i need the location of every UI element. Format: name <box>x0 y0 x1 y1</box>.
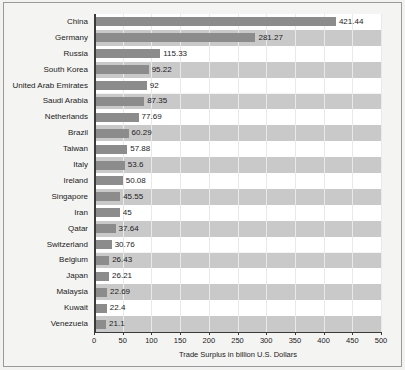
bar[interactable] <box>94 240 112 249</box>
bar[interactable] <box>94 208 120 217</box>
value-label: 87.35 <box>147 96 167 106</box>
x-tick-mark <box>324 332 325 335</box>
bar[interactable] <box>94 256 109 265</box>
bar[interactable] <box>94 17 336 26</box>
category-label: China <box>67 17 88 27</box>
x-tick-mark <box>209 332 210 335</box>
category-label: Saudi Arabia <box>43 96 88 106</box>
value-label: 421.44 <box>339 17 363 27</box>
bar[interactable] <box>94 176 123 185</box>
category-label: South Korea <box>44 65 88 75</box>
x-tick-mark <box>180 332 181 335</box>
category-label: Switzerland <box>47 240 88 250</box>
value-label: 45.55 <box>123 192 143 202</box>
bar-series <box>94 14 381 332</box>
value-label: 26.43 <box>112 255 132 265</box>
x-tick-mark <box>94 332 95 335</box>
category-label: Germany <box>55 33 88 43</box>
category-label: Singapore <box>52 192 88 202</box>
value-label: 115.33 <box>163 49 187 59</box>
value-label: 22.69 <box>110 287 130 297</box>
x-tick-mark <box>238 332 239 335</box>
value-label: 50.08 <box>126 176 146 186</box>
bar[interactable] <box>94 161 125 170</box>
x-tick-mark <box>381 332 382 335</box>
x-tick-mark <box>352 332 353 335</box>
bar[interactable] <box>94 33 255 42</box>
category-label: Taiwan <box>63 144 88 154</box>
x-tick-label: 250 <box>231 336 244 345</box>
bar[interactable] <box>94 192 120 201</box>
value-label: 57.88 <box>130 144 150 154</box>
category-label: Venezuela <box>51 319 88 329</box>
category-label: Iran <box>74 208 88 218</box>
value-label: 53.6 <box>128 160 144 170</box>
value-label: 37.64 <box>119 224 139 234</box>
x-tick-label: 450 <box>346 336 359 345</box>
y-axis-line <box>94 14 96 332</box>
x-axis-title: Trade Surplus in billion U.S. Dollars <box>94 350 382 359</box>
y-axis-category-labels: ChinaGermanyRussiaSouth KoreaUnited Arab… <box>0 14 91 332</box>
x-tick-label: 100 <box>145 336 158 345</box>
value-label: 26.21 <box>112 271 132 281</box>
bar[interactable] <box>94 272 109 281</box>
category-label: Ireland <box>64 176 88 186</box>
x-tick-mark <box>266 332 267 335</box>
category-label: Qatar <box>68 224 88 234</box>
value-label: 92 <box>150 81 159 91</box>
x-tick-mark <box>151 332 152 335</box>
value-label: 30.76 <box>115 240 135 250</box>
value-label: 21.1 <box>109 319 125 329</box>
bar[interactable] <box>94 65 149 74</box>
x-tick-label: 0 <box>92 336 96 345</box>
value-label: 60.29 <box>132 128 152 138</box>
value-label: 281.27 <box>258 33 282 43</box>
x-tick-label: 350 <box>289 336 302 345</box>
category-label: Japan <box>66 271 88 281</box>
value-label: 45 <box>123 208 132 218</box>
category-label: Italy <box>73 160 88 170</box>
x-tick-label: 200 <box>203 336 216 345</box>
x-tick-label: 150 <box>174 336 187 345</box>
value-label: 77.69 <box>142 112 162 122</box>
bar[interactable] <box>94 224 116 233</box>
x-tick-mark <box>123 332 124 335</box>
category-label: Brazil <box>68 128 88 138</box>
category-label: United Arab Emirates <box>12 81 88 91</box>
category-label: Netherlands <box>45 112 88 122</box>
x-tick-label: 50 <box>119 336 127 345</box>
plot-area <box>94 14 381 332</box>
chart-figure: ChinaGermanyRussiaSouth KoreaUnited Arab… <box>0 0 405 370</box>
bar[interactable] <box>94 81 147 90</box>
x-tick-mark <box>295 332 296 335</box>
x-tick-label: 400 <box>317 336 330 345</box>
bar[interactable] <box>94 129 129 138</box>
value-label: 95.22 <box>152 65 172 75</box>
bar[interactable] <box>94 49 160 58</box>
category-label: Malaysia <box>56 287 88 297</box>
category-label: Russia <box>64 49 88 59</box>
bar[interactable] <box>94 113 139 122</box>
bar[interactable] <box>94 145 127 154</box>
x-tick-label: 300 <box>260 336 273 345</box>
value-label: 22.4 <box>110 303 126 313</box>
x-tick-label: 500 <box>375 336 388 345</box>
category-label: Kuwait <box>64 303 88 313</box>
bar[interactable] <box>94 97 144 106</box>
category-label: Belgium <box>59 255 88 265</box>
